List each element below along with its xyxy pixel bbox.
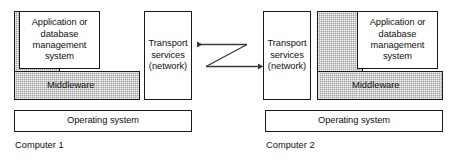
application-box-label-computer-1: Application or database management syste… <box>20 17 99 63</box>
application-box-computer-1: Application or database management syste… <box>19 11 100 69</box>
operating-system-label-computer-1: Operating system <box>64 115 142 126</box>
middleware-label-computer-1: Middleware <box>47 80 95 91</box>
middleware-architecture-diagram: Application or database management syste… <box>0 0 460 162</box>
caption-computer-2: Computer 2 <box>266 140 315 151</box>
middleware-corner-join-computer-1 <box>100 73 139 99</box>
transport-box-computer-2: Transport services (network) <box>263 11 311 100</box>
operating-system-box-computer-1: Operating system <box>14 110 192 132</box>
transport-box-computer-1: Transport services (network) <box>144 11 192 100</box>
caption-computer-1: Computer 1 <box>15 140 64 151</box>
middleware-label-computer-2: Middleware <box>352 80 400 91</box>
transport-box-label-computer-1: Transport services (network) <box>145 38 191 72</box>
application-box-label-computer-2: Application or database management syste… <box>358 17 437 63</box>
transport-box-label-computer-2: Transport services (network) <box>264 38 310 72</box>
operating-system-label-computer-2: Operating system <box>315 115 393 126</box>
application-box-computer-2: Application or database management syste… <box>357 11 438 69</box>
network-crossover-diagonal <box>206 45 247 67</box>
operating-system-box-computer-2: Operating system <box>265 110 443 132</box>
